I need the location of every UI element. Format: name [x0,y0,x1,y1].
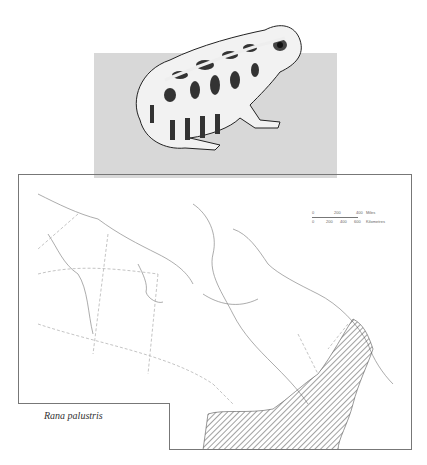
scale-tick: 200 [326,219,333,224]
scale-unit-km: Kilometres [366,219,385,224]
species-label-box: Rana palustris [18,403,170,450]
scale-unit-miles: Miles [366,210,375,215]
frog-illustration [110,10,310,160]
scale-bar: 0 200 400 Miles 0 200 400 600 Kilometres [312,210,412,230]
scale-tick: 0 [312,219,314,224]
scale-tick: 400 [356,210,363,215]
species-name: Rana palustris [44,410,103,421]
scale-tick: 600 [354,219,361,224]
scale-tick: 0 [312,210,314,215]
scale-tick: 400 [340,219,347,224]
scale-tick: 200 [334,210,341,215]
